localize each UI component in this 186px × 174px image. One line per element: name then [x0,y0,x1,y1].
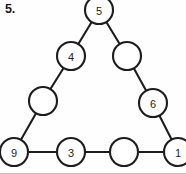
node-circle-left-lower[interactable] [29,87,57,115]
node-circle-bottom-mid-2[interactable] [110,138,138,166]
triangle-edge-apex-to-left-upper [78,22,92,45]
node-value-bottom-mid-1: 3 [68,147,74,159]
worksheet-problem-figure: 5. 549316 [0,0,186,174]
node-value-left-upper: 4 [68,51,74,63]
node-right-lower-filled[interactable]: 6 [139,89,167,117]
node-left-upper-filled[interactable]: 4 [57,42,85,70]
triangle-edge-left-lower-to-bottom-left [21,113,37,141]
node-value-bottom-left: 9 [11,147,17,159]
triangle-edge-left-upper-to-left-lower [50,67,64,89]
node-layer: 549316 [0,0,186,166]
node-left-lower-empty[interactable] [29,87,57,115]
node-value-apex: 5 [96,5,102,17]
node-bottom-mid-2-empty[interactable] [110,138,138,166]
node-circle-right-upper[interactable] [113,42,141,70]
node-bottom-mid-1-filled[interactable]: 3 [57,138,85,166]
node-bottom-left-filled[interactable]: 9 [0,138,28,166]
triangle-edge-right-lower-to-right-upper [134,68,147,91]
node-right-upper-empty[interactable] [113,42,141,70]
node-value-bottom-right: 1 [175,147,181,159]
node-apex-filled[interactable]: 5 [85,0,113,24]
triangle-edge-bottom-right-to-right-lower [159,115,172,140]
triangle-edge-right-upper-to-apex [106,22,120,45]
magic-triangle-diagram: 549316 [0,0,186,174]
node-value-right-lower: 6 [150,98,156,110]
node-bottom-right-filled[interactable]: 1 [164,138,186,166]
